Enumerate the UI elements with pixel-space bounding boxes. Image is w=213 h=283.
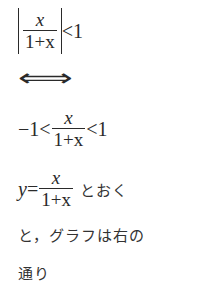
text: とおく bbox=[80, 179, 128, 200]
denominator: 1+x bbox=[23, 31, 57, 53]
numerator: x bbox=[50, 168, 62, 188]
right-bound: <1 bbox=[86, 118, 107, 141]
text: 通り bbox=[18, 262, 50, 283]
inequality-range-line: −1< x 1+x <1 bbox=[18, 108, 108, 151]
numerator: x bbox=[62, 108, 74, 128]
fraction: x 1+x bbox=[52, 108, 86, 151]
denominator: 1+x bbox=[52, 129, 86, 151]
inequality-abs-line: x 1+x <1 bbox=[18, 8, 83, 54]
double-arrow-icon: ⟺ bbox=[18, 64, 73, 92]
relation: <1 bbox=[62, 20, 83, 43]
variable-y: y bbox=[18, 178, 27, 201]
absolute-value: x 1+x bbox=[18, 8, 62, 54]
text-line-cut: 通り bbox=[18, 262, 50, 283]
equals: = bbox=[27, 178, 38, 201]
fraction: x 1+x bbox=[23, 10, 57, 53]
text: と，グラフは右の bbox=[18, 224, 145, 245]
equivalence-line: ⟺ bbox=[18, 64, 52, 92]
fraction: x 1+x bbox=[39, 168, 73, 211]
definition-line: y = x 1+x とおく bbox=[18, 168, 128, 211]
denominator: 1+x bbox=[39, 189, 73, 211]
numerator: x bbox=[34, 10, 46, 30]
left-bound: −1< bbox=[18, 118, 51, 141]
text-line: と，グラフは右の bbox=[18, 224, 145, 245]
